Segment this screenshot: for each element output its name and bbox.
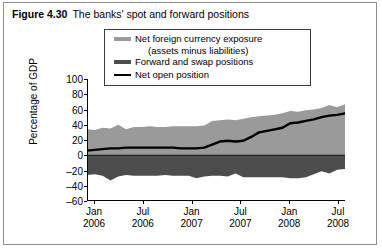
line-swatch-icon xyxy=(109,69,135,81)
x-axis-tick-year: 2006 xyxy=(83,218,105,230)
y-axis-tick-label: 100 xyxy=(53,74,83,85)
x-axis-tick-mark xyxy=(289,201,290,204)
x-axis-tick-label: Jan2006 xyxy=(83,206,105,230)
x-axis-tick-month: Jul xyxy=(327,206,349,218)
x-axis-tick-month: Jul xyxy=(132,206,154,218)
x-axis-tick-label: Jan2008 xyxy=(278,206,300,230)
plot-frame xyxy=(87,79,345,201)
x-axis-tick-year: 2007 xyxy=(229,218,251,230)
y-axis-tick-label: 80 xyxy=(53,89,83,100)
y-axis-tick-mark xyxy=(84,125,87,126)
legend-item-forward-and-swap-positions: Forward and swap positions xyxy=(109,56,306,69)
x-axis-tick-label: Jul2006 xyxy=(132,206,154,230)
x-axis-tick-mark xyxy=(192,201,193,204)
y-axis-tick-mark xyxy=(84,155,87,156)
y-axis-tick-label: 60 xyxy=(53,104,83,115)
y-axis-tick-label: 0 xyxy=(53,150,83,161)
y-axis-tick-mark xyxy=(84,171,87,172)
y-axis-tick-mark xyxy=(84,140,87,141)
y-axis-tick-mark xyxy=(84,79,87,80)
x-axis-tick-year: 2006 xyxy=(132,218,154,230)
x-axis-tick-mark xyxy=(143,201,144,204)
y-axis-tick-mark xyxy=(84,186,87,187)
x-axis-tick-month: Jan xyxy=(278,206,300,218)
chart-legend: Net foreign currency exposure (assets mi… xyxy=(104,29,311,86)
plot-area: 100806040200–20–40–60 Jan2006Jul2006Jan2… xyxy=(87,79,345,201)
y-axis-tick-label: 20 xyxy=(53,135,83,146)
legend-item-net-foreign-currency-exposure: Net foreign currency exposure (assets mi… xyxy=(109,33,306,56)
x-axis-tick-month: Jan xyxy=(83,206,105,218)
x-axis-tick-label: Jan2007 xyxy=(180,206,202,230)
x-axis-tick-year: 2007 xyxy=(180,218,202,230)
legend-label-forward: Forward and swap positions xyxy=(135,56,253,68)
forward-swatch-icon xyxy=(109,56,135,68)
y-axis-tick-label: –40 xyxy=(53,180,83,191)
y-axis-title: Percentage of GDP xyxy=(28,42,39,162)
x-axis-tick-mark xyxy=(240,201,241,204)
x-axis-tick-year: 2008 xyxy=(327,218,349,230)
legend-label-net-open: Net open position xyxy=(135,69,209,81)
legend-label-exposure-main: Net foreign currency exposure xyxy=(135,33,262,44)
y-axis-tick-mark xyxy=(84,201,87,202)
legend-item-net-open-position: Net open position xyxy=(109,69,306,82)
x-axis-tick-month: Jan xyxy=(180,206,202,218)
x-axis-tick-year: 2008 xyxy=(278,218,300,230)
x-axis-tick-mark xyxy=(94,201,95,204)
y-axis-tick-mark xyxy=(84,110,87,111)
figure-caption: The banks' spot and forward positions xyxy=(72,8,249,20)
x-axis-tick-month: Jul xyxy=(229,206,251,218)
legend-label-exposure: Net foreign currency exposure (assets mi… xyxy=(135,33,262,56)
y-axis-tick-label: –60 xyxy=(53,196,83,207)
x-axis-tick-mark xyxy=(338,201,339,204)
x-axis-tick-label: Jul2008 xyxy=(327,206,349,230)
band-swatch-icon xyxy=(109,33,135,45)
figure-container: Figure 4.30The banks' spot and forward p… xyxy=(0,0,382,250)
y-axis-tick-mark xyxy=(84,94,87,95)
x-axis-tick-label: Jul2007 xyxy=(229,206,251,230)
figure-title: Figure 4.30The banks' spot and forward p… xyxy=(12,8,249,21)
y-axis-tick-label: –20 xyxy=(53,165,83,176)
figure-number: Figure 4.30 xyxy=(12,8,67,20)
y-axis-tick-label: 40 xyxy=(53,119,83,130)
legend-label-exposure-sub: (assets minus liabilities) xyxy=(148,45,262,57)
